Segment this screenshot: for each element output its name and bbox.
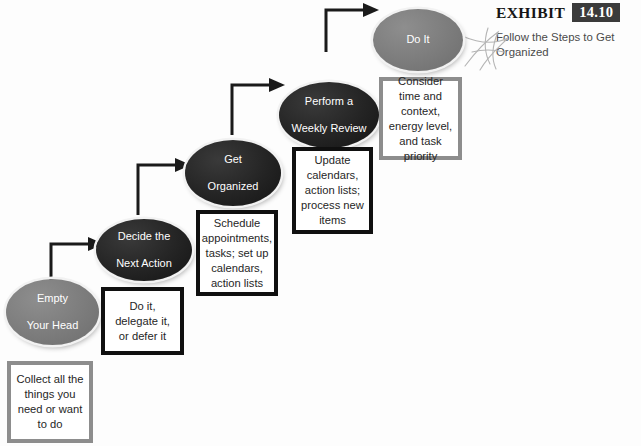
exhibit-title-row: EXHIBIT 14.10 (496, 2, 641, 23)
caption-schedule-appointments[interactable]: Schedule appointments, tasks; set up cal… (196, 210, 278, 296)
caption-consider-time-context[interactable]: Consider time and context, energy level,… (379, 77, 462, 160)
node-perform-a-weekly-review[interactable]: Perform a Weekly Review (279, 82, 379, 148)
exhibit-canvas: EXHIBIT 14.10 Follow the Steps to Get Or… (0, 0, 641, 446)
node-do-it-label: Do It (400, 33, 435, 47)
node-perform-a-weekly-review-label: Perform a Weekly Review (280, 95, 379, 136)
caption-do-delegate-defer[interactable]: Do it, delegate it, or defer it (101, 287, 184, 355)
node-line-1: Get (202, 153, 265, 167)
connector-arrow-4 (319, 0, 381, 54)
caption-update-calendars[interactable]: Update calendars, action lists; process … (292, 147, 373, 234)
caption-text: Update calendars, action lists; process … (296, 153, 369, 228)
connector-arrow-3 (225, 75, 287, 137)
caption-collect-all-things[interactable]: Collect all the things you need or want … (7, 361, 93, 443)
node-line-2: Weekly Review (286, 122, 373, 136)
exhibit-label: EXHIBIT (496, 5, 565, 21)
exhibit-number-badge: 14.10 (572, 3, 620, 23)
node-get-organized[interactable]: Get Organized (185, 140, 281, 206)
exhibit-subtitle: Follow the Steps to Get Organized (496, 30, 628, 60)
node-do-it[interactable]: Do It (373, 9, 463, 71)
node-empty-your-head-label: Empty Your Head (15, 292, 91, 333)
node-line-2: Organized (202, 180, 265, 194)
node-decide-the-next-action-label: Decide the Next Action (104, 230, 184, 271)
caption-text: Schedule appointments, tasks; set up cal… (198, 216, 276, 291)
exhibit-header: EXHIBIT 14.10 Follow the Steps to Get Or… (496, 2, 641, 64)
node-line-2: Next Action (110, 257, 178, 271)
caption-text: Collect all the things you need or want … (11, 372, 89, 432)
node-line-1: Decide the (110, 230, 178, 244)
node-line-1: Empty (21, 292, 85, 306)
caption-text: Do it, delegate it, or defer it (105, 299, 180, 344)
node-line-1: Perform a (286, 95, 373, 109)
node-line-2: Your Head (21, 319, 85, 333)
connector-arrow-2 (131, 155, 193, 217)
node-get-organized-label: Get Organized (196, 153, 271, 194)
node-decide-the-next-action[interactable]: Decide the Next Action (96, 219, 192, 281)
node-empty-your-head[interactable]: Empty Your Head (6, 279, 99, 345)
caption-text: Consider time and context, energy level,… (383, 74, 458, 164)
